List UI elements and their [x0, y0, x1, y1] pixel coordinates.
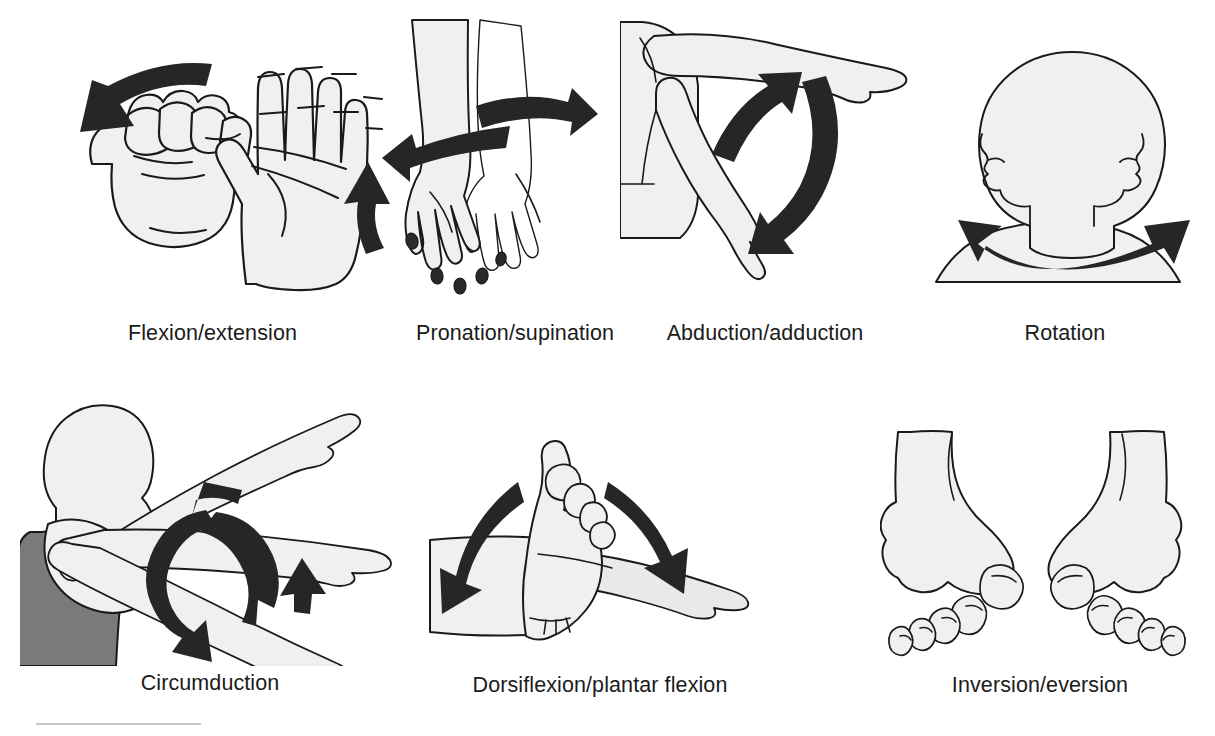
caption-abduction-adduction: Abduction/adduction	[620, 321, 910, 346]
caption-pronation-supination: Pronation/supination	[370, 321, 660, 346]
panel-pronation-supination: Pronation/supination	[370, 14, 660, 359]
abduction-arrow	[712, 72, 802, 162]
body-movements-figure: Flexion/extension	[0, 0, 1215, 736]
flexion-extension-illustration	[30, 14, 395, 314]
rotation-illustration	[930, 14, 1200, 314]
panel-flexion-extension: Flexion/extension	[30, 14, 395, 359]
panel-dorsiflexion-plantarflexion: Dorsiflexion/plantar flexion	[400, 420, 800, 720]
panel-inversion-eversion: Inversion/eversion	[880, 420, 1200, 720]
caption-flexion-extension: Flexion/extension	[30, 321, 395, 346]
caption-dorsiflexion-plantarflexion: Dorsiflexion/plantar flexion	[400, 673, 800, 698]
caption-circumduction: Circumduction	[20, 671, 400, 696]
dorsiflexion-illustration	[400, 420, 800, 670]
panel-circumduction: Circumduction	[20, 396, 400, 716]
caption-rotation: Rotation	[930, 321, 1200, 346]
pronation-supination-illustration	[370, 14, 660, 314]
panel-rotation: Rotation	[930, 14, 1200, 359]
abduction-adduction-illustration	[620, 14, 910, 314]
caption-inversion-eversion: Inversion/eversion	[880, 673, 1200, 698]
inversion-eversion-illustration	[880, 420, 1200, 670]
circumduction-illustration	[20, 396, 400, 666]
bottom-rule	[36, 723, 201, 725]
panel-abduction-adduction: Abduction/adduction	[620, 14, 910, 359]
